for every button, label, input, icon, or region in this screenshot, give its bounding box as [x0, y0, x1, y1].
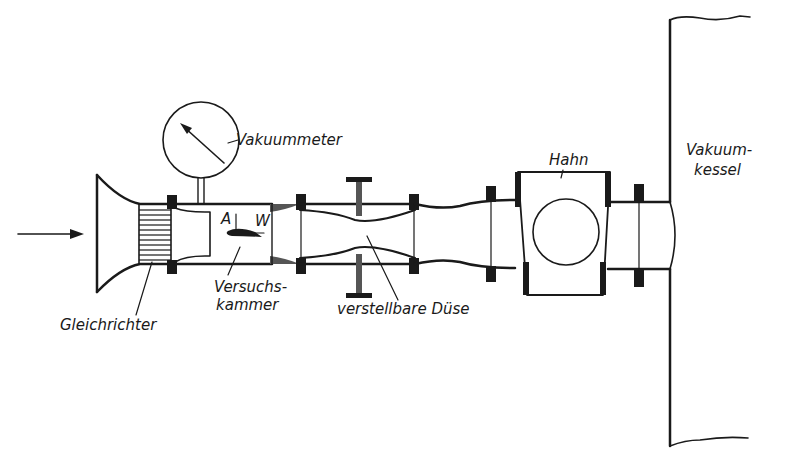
outlet-pipe — [608, 184, 675, 287]
vacuum-gauge — [163, 102, 239, 204]
label-versuchskammer-1: Versuchs- — [214, 278, 287, 296]
leader-versuchskammer — [228, 247, 240, 275]
label-vakuumkessel-2: kessel — [694, 161, 742, 179]
label-versuchskammer-2: kammer — [216, 296, 279, 314]
label-point-w: W — [255, 212, 271, 230]
leader-duese — [367, 236, 398, 300]
adjustable-nozzle — [296, 177, 419, 298]
inlet-bell — [97, 175, 175, 292]
flange — [167, 195, 177, 209]
label-gleichrichter: Gleichrichter — [60, 316, 157, 334]
label-point-a: A — [220, 210, 231, 228]
flow-straightener — [139, 204, 171, 264]
label-hahn: Hahn — [549, 151, 589, 169]
label-vakuummeter: Vakuummeter — [236, 131, 343, 149]
valve — [515, 170, 611, 295]
vacuum-tank — [670, 16, 750, 446]
label-duese: verstellbare Düse — [337, 300, 470, 318]
wind-tunnel-diagram: Vakuummeter A W — [0, 0, 790, 468]
flow-arrow-icon — [18, 229, 84, 239]
label-vakuumkessel-1: Vakuum- — [686, 141, 752, 159]
diffuser — [415, 186, 515, 282]
leader-gleichrichter — [136, 262, 152, 315]
